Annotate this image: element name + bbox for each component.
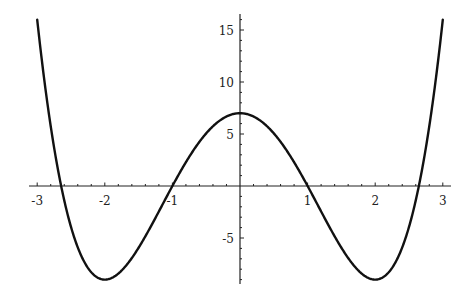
x-tick-label: 3 <box>439 194 447 208</box>
x-axis-tick-labels: -3-2-1123 <box>31 194 446 208</box>
x-tick-label: 2 <box>371 194 379 208</box>
x-tick-label: -2 <box>99 194 111 208</box>
y-axis-tick-labels: -551015 <box>219 24 234 246</box>
function-plot: -3-2-1123 -551015 <box>0 0 471 298</box>
y-tick-label: 15 <box>219 24 234 38</box>
y-axis-ticks <box>240 20 244 280</box>
y-tick-label: 10 <box>219 76 234 90</box>
x-tick-label: -3 <box>31 194 43 208</box>
y-tick-label: 5 <box>226 128 234 142</box>
y-tick-label: -5 <box>222 232 234 246</box>
x-tick-label: 1 <box>304 194 312 208</box>
